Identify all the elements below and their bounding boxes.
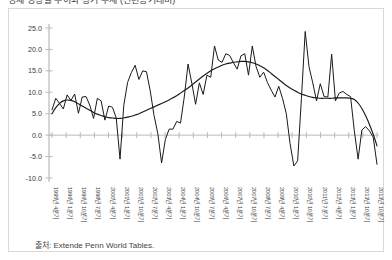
x-tick-label: 1995년 4분기 xyxy=(52,187,60,219)
y-tick-label: 10.0 xyxy=(28,88,42,97)
x-tick-label: 2007년 10분기 xyxy=(250,187,258,222)
x-tick-label: 2005년 7분기 xyxy=(208,187,216,219)
figure-frame: 25.020.015.010.05.00.0-5.0-10.01995년 4분기… xyxy=(8,8,384,252)
figure-title-text: 경제 성장률 추이와 장기 추세 (전년동기대비) xyxy=(8,0,308,5)
x-tick-label: 2009년 4분기 xyxy=(278,187,286,219)
figure-root: 경제 성장률 추이와 장기 추세 (전년동기대비) 25.020.015.010… xyxy=(0,0,392,260)
x-tick-label: 2010년 1분기 xyxy=(292,187,300,219)
line-chart: 25.020.015.010.05.00.0-5.0-10.01995년 4분기… xyxy=(9,9,385,253)
y-tick-label: -10.0 xyxy=(26,174,42,183)
y-tick-label: 15.0 xyxy=(28,66,42,75)
x-tick-label: 2007년 1분기 xyxy=(236,187,244,219)
x-tick-label: 2013년 10분기 xyxy=(377,187,385,222)
x-tick-label: 1998년 7분기 xyxy=(94,187,102,219)
x-tick-label: 2004년 10분기 xyxy=(193,187,201,222)
x-tick-label: 1996년 10분기 xyxy=(80,187,88,222)
x-tick-label: 2011년 7분기 xyxy=(321,187,329,219)
chart-canvas: 25.020.015.010.05.00.0-5.0-10.01995년 4분기… xyxy=(9,9,385,253)
y-tick-label: 5.0 xyxy=(32,109,42,118)
x-tick-label: 2003년 4분기 xyxy=(165,187,173,219)
source-note: 출처: Extende Penn World Tables. xyxy=(35,241,154,251)
x-tick-label: 2006년 4분기 xyxy=(222,187,230,219)
trend-line xyxy=(52,61,377,145)
x-tick-label: 2008년 7분기 xyxy=(264,187,272,219)
y-tick-label: 20.0 xyxy=(28,45,42,54)
x-tick-label: 2000년 4분기 xyxy=(109,187,117,219)
x-tick-label: 2013년 1분기 xyxy=(349,187,357,219)
x-tick-label: 2002년 7분기 xyxy=(151,187,159,219)
x-tick-label: 2001년 1분기 xyxy=(123,187,131,219)
x-tick-label: 2013년 10분기 xyxy=(363,187,371,222)
y-tick-label: 25.0 xyxy=(28,24,42,33)
x-tick-label: 2012년 4분기 xyxy=(335,187,343,219)
y-tick-label: 0.0 xyxy=(32,131,42,140)
x-tick-label: 2010년 10분기 xyxy=(306,187,314,222)
x-tick-label: 2001년 10분기 xyxy=(137,187,145,222)
figure-title-clipped: 경제 성장률 추이와 장기 추세 (전년동기대비) xyxy=(8,0,308,7)
x-tick-label: 2004년 1분기 xyxy=(179,187,187,219)
x-tick-label: 1996년 1분기 xyxy=(66,187,74,219)
y-tick-label: -5.0 xyxy=(30,152,42,161)
